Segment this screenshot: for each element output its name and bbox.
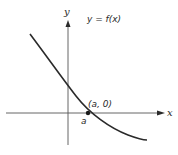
function-graph: y x y = f(x) (a, 0) a [0, 0, 178, 155]
x-axis-arrow-icon [157, 111, 165, 116]
root-tick-label: a [81, 116, 87, 126]
x-axis-label: x [167, 107, 173, 118]
function-label: y = f(x) [86, 14, 121, 24]
y-axis-arrow-icon [66, 20, 71, 27]
point-label: (a, 0) [88, 99, 112, 109]
function-curve [30, 34, 147, 140]
root-point [86, 111, 90, 115]
y-axis-label: y [63, 6, 70, 17]
